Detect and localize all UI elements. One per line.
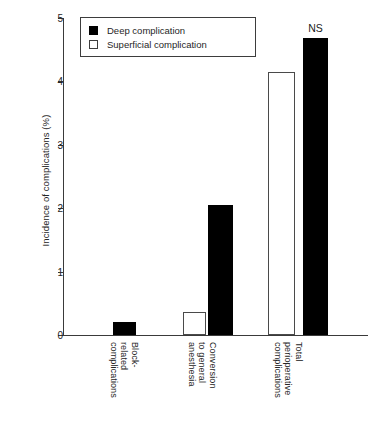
bar-superficial xyxy=(268,72,295,335)
chart-legend: Deep complication Superficial complicati… xyxy=(80,17,256,57)
category-label: Total perioperative complications xyxy=(272,342,304,398)
x-axis-line xyxy=(63,335,368,336)
y-axis-line xyxy=(63,18,64,336)
legend-label-deep: Deep complication xyxy=(107,25,185,36)
y-tick-label: 2 xyxy=(17,203,63,214)
bar-deep xyxy=(303,38,328,335)
y-tick-label: 3 xyxy=(17,139,63,150)
y-tick-label: 1 xyxy=(17,266,63,277)
bar-annotation-ns: NS xyxy=(308,22,323,34)
legend-item-superficial: Superficial complication xyxy=(89,37,248,51)
bar-deep xyxy=(208,205,233,335)
legend-swatch-deep-icon xyxy=(89,26,98,35)
y-axis-title: Incidence of complications (%) xyxy=(40,66,51,296)
y-tick-label: 5 xyxy=(17,13,63,24)
bar-chart-figure: Incidence of complications (%) 012345 NS… xyxy=(0,0,383,422)
legend-item-deep: Deep complication xyxy=(89,23,248,37)
legend-label-superficial: Superficial complication xyxy=(107,39,207,50)
bar-deep xyxy=(113,322,136,335)
category-label: Conversion to general anesthesia xyxy=(186,342,218,389)
category-label: Block- related complications xyxy=(108,342,140,398)
y-tick-label: 0 xyxy=(17,330,63,341)
y-tick-label: 4 xyxy=(17,76,63,87)
bar-superficial xyxy=(183,312,206,335)
legend-swatch-superficial-icon xyxy=(89,40,98,49)
